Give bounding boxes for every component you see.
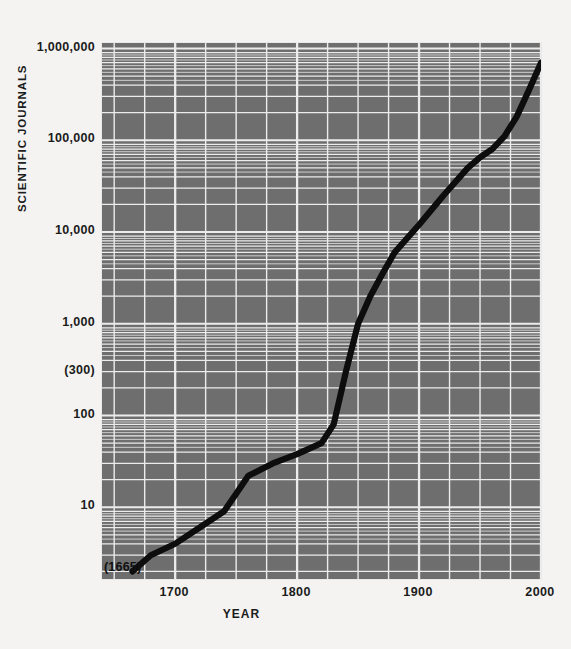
y-tick-label: (300) bbox=[3, 364, 95, 377]
y-tick-label: 10,000 bbox=[3, 224, 95, 237]
x-tick-label: 2000 bbox=[525, 586, 554, 599]
y-tick-label: 1,000,000 bbox=[3, 41, 95, 54]
plot-area bbox=[101, 42, 542, 580]
start-year-annotation: (1665) bbox=[104, 561, 141, 574]
x-tick-label: 1800 bbox=[281, 586, 310, 599]
y-tick-label: 1,000 bbox=[3, 316, 95, 329]
x-axis-title: YEAR bbox=[0, 608, 571, 620]
x-tick-label: 1900 bbox=[403, 586, 432, 599]
y-tick-label: 10 bbox=[3, 499, 95, 512]
chart-figure: SCIENTIFIC JOURNALS 10100(300)1,00010,00… bbox=[0, 0, 571, 649]
x-axis-tick-labels: 1700180019002000 bbox=[0, 586, 571, 610]
y-tick-label: 100,000 bbox=[3, 132, 95, 145]
data-series-line bbox=[102, 43, 541, 579]
y-axis-tick-labels: 10100(300)1,00010,000100,0001,000,000 bbox=[0, 0, 95, 649]
y-tick-label: 100 bbox=[3, 408, 95, 421]
x-tick-label: 1700 bbox=[159, 586, 188, 599]
x-axis-title-text: YEAR bbox=[223, 607, 261, 621]
